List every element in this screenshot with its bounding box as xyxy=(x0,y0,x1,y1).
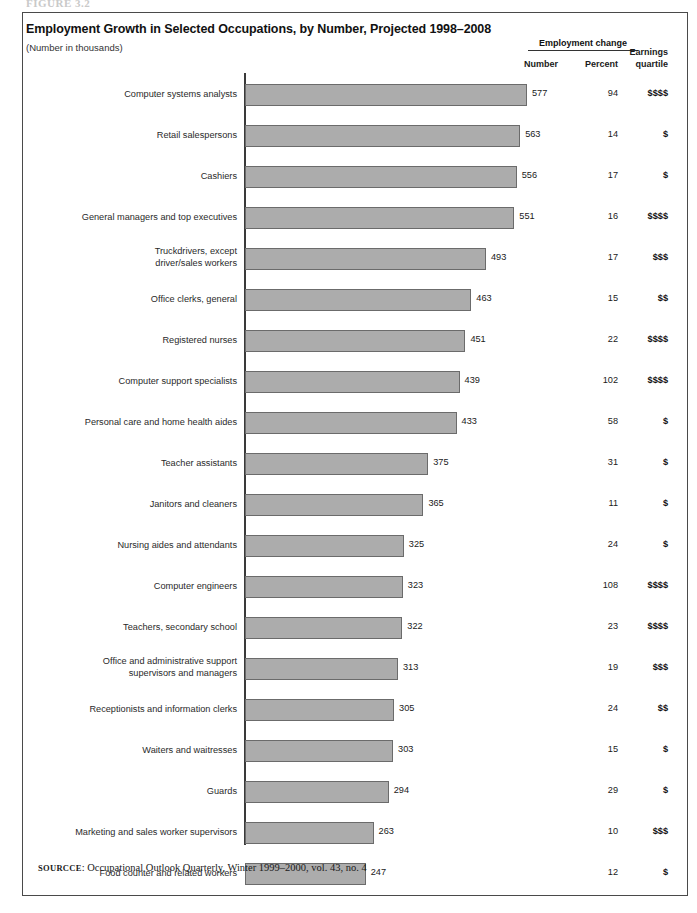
row-label: Nursing aides and attendants xyxy=(40,539,237,551)
earnings-quartile-value: $ xyxy=(612,129,668,139)
bar xyxy=(245,289,471,311)
bar xyxy=(245,84,527,106)
bar-value-label: 263 xyxy=(379,826,394,836)
earnings-quartile-value: $$$ xyxy=(612,662,668,672)
chart-row: Computer engineers323108$$$$ xyxy=(0,567,697,608)
source-text: : Occupational Outlook Quarterly, Winter… xyxy=(82,862,367,873)
bar-value-label: 375 xyxy=(433,457,448,467)
chart-row: Registered nurses45122$$$$ xyxy=(0,321,697,362)
row-label: Computer systems analysts xyxy=(40,88,237,100)
bar-value-label: 294 xyxy=(394,785,409,795)
row-label: Guards xyxy=(40,785,237,797)
row-label-line: Receptionists and information clerks xyxy=(40,703,237,715)
row-label: Teacher assistants xyxy=(40,457,237,469)
bar xyxy=(245,699,394,721)
bar-value-label: 305 xyxy=(399,703,414,713)
bar xyxy=(245,453,428,475)
row-label: Receptionists and information clerks xyxy=(40,703,237,715)
earnings-quartile-value: $ xyxy=(612,416,668,426)
earnings-quartile-value: $ xyxy=(612,744,668,754)
row-label-line: Guards xyxy=(40,785,237,797)
chart-row: Computer support specialists439102$$$$ xyxy=(0,362,697,403)
bar xyxy=(245,166,517,188)
bar-value-label: 247 xyxy=(371,867,386,877)
row-label: Teachers, secondary school xyxy=(40,621,237,633)
row-label-line: Personal care and home health aides xyxy=(40,416,237,428)
row-label: Cashiers xyxy=(40,170,237,182)
row-label-line: Teachers, secondary school xyxy=(40,621,237,633)
earnings-quartile-value: $$$$ xyxy=(612,88,668,98)
row-label-line: Computer engineers xyxy=(40,580,237,592)
row-label-line: supervisors and managers xyxy=(40,667,237,679)
row-label-line: Computer systems analysts xyxy=(40,88,237,100)
bar-value-label: 556 xyxy=(522,170,537,180)
row-label-line: Marketing and sales worker supervisors xyxy=(40,826,237,838)
bar xyxy=(245,330,465,352)
chart-row: Personal care and home health aides43358… xyxy=(0,403,697,444)
bar-value-label: 563 xyxy=(525,129,540,139)
row-label-line: Office and administrative support xyxy=(40,655,237,667)
source-note: SOURCCE: Occupational Outlook Quarterly,… xyxy=(38,862,367,873)
earnings-quartile-value: $$ xyxy=(612,703,668,713)
row-label-line: Retail salespersons xyxy=(40,129,237,141)
bar-value-label: 551 xyxy=(519,211,534,221)
earnings-quartile-value: $ xyxy=(612,785,668,795)
bar-value-label: 577 xyxy=(532,88,547,98)
row-label-line: Computer support specialists xyxy=(40,375,237,387)
row-label-line: General managers and top executives xyxy=(40,211,237,223)
row-label-line: Janitors and cleaners xyxy=(40,498,237,510)
chart-row: Guards29429$ xyxy=(0,772,697,813)
chart-plot-area: Computer systems analysts57794$$$$Retail… xyxy=(0,0,697,913)
earnings-quartile-value: $$$$ xyxy=(612,211,668,221)
row-label: Office and administrative supportsupervi… xyxy=(40,655,237,679)
row-label: Janitors and cleaners xyxy=(40,498,237,510)
bar-value-label: 463 xyxy=(476,293,491,303)
earnings-quartile-value: $$$ xyxy=(612,252,668,262)
earnings-quartile-value: $$$$ xyxy=(612,621,668,631)
bar xyxy=(245,617,402,639)
row-label-line: Cashiers xyxy=(40,170,237,182)
chart-row: Office clerks, general46315$$ xyxy=(0,280,697,321)
earnings-quartile-value: $ xyxy=(612,539,668,549)
row-label-line: Waiters and waitresses xyxy=(40,744,237,756)
row-label-line: Office clerks, general xyxy=(40,293,237,305)
row-label: Registered nurses xyxy=(40,334,237,346)
chart-row: General managers and top executives55116… xyxy=(0,198,697,239)
earnings-quartile-value: $$$$ xyxy=(612,334,668,344)
bar xyxy=(245,822,374,844)
bar-value-label: 313 xyxy=(403,662,418,672)
earnings-quartile-value: $$$$ xyxy=(612,375,668,385)
bar xyxy=(245,125,520,147)
bar-value-label: 439 xyxy=(465,375,480,385)
earnings-quartile-value: $ xyxy=(612,170,668,180)
earnings-quartile-value: $ xyxy=(612,498,668,508)
bar xyxy=(245,576,403,598)
chart-row: Computer systems analysts57794$$$$ xyxy=(0,75,697,116)
bar xyxy=(245,658,398,680)
bar-value-label: 433 xyxy=(462,416,477,426)
chart-row: Marketing and sales worker supervisors26… xyxy=(0,813,697,854)
chart-row: Receptionists and information clerks3052… xyxy=(0,690,697,731)
chart-row: Food counter and related workers24712$ xyxy=(0,854,697,895)
bar xyxy=(245,371,460,393)
row-label-line: Truckdrivers, except xyxy=(40,245,237,257)
chart-row: Teachers, secondary school32223$$$$ xyxy=(0,608,697,649)
bar xyxy=(245,412,457,434)
row-label: Waiters and waitresses xyxy=(40,744,237,756)
row-label-line: Registered nurses xyxy=(40,334,237,346)
bar xyxy=(245,494,423,516)
row-label-line: Teacher assistants xyxy=(40,457,237,469)
row-label: Marketing and sales worker supervisors xyxy=(40,826,237,838)
row-label: Computer support specialists xyxy=(40,375,237,387)
bar-value-label: 451 xyxy=(470,334,485,344)
bar-value-label: 365 xyxy=(428,498,443,508)
row-label: Truckdrivers, exceptdriver/sales workers xyxy=(40,245,237,269)
earnings-quartile-value: $$$ xyxy=(612,826,668,836)
earnings-quartile-value: $$$$ xyxy=(612,580,668,590)
bar-value-label: 322 xyxy=(407,621,422,631)
bar xyxy=(245,740,393,762)
chart-row: Truckdrivers, exceptdriver/sales workers… xyxy=(0,239,697,280)
row-label-line: driver/sales workers xyxy=(40,257,237,269)
chart-row: Retail salespersons56314$ xyxy=(0,116,697,157)
bar-value-label: 325 xyxy=(409,539,424,549)
